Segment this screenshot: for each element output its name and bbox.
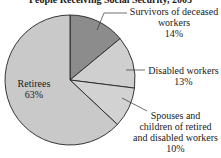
label-text: workers <box>127 17 221 28</box>
label-disabled: Disabled workers 13% <box>146 65 221 87</box>
label-text: and disabled workers <box>130 132 221 143</box>
label-spouses: Spouses and children of retired and disa… <box>130 110 221 154</box>
label-survivors: Survivors of deceased workers 14% <box>127 6 221 39</box>
label-text: Survivors of deceased <box>127 6 221 17</box>
label-percent: 10% <box>130 143 221 154</box>
label-percent: 14% <box>127 28 221 39</box>
label-text: Retirees <box>14 78 54 89</box>
label-retirees: Retirees 63% <box>14 78 54 100</box>
label-text: Spouses and <box>130 110 221 121</box>
label-percent: 13% <box>146 76 221 87</box>
label-text: Disabled workers <box>146 65 221 76</box>
label-percent: 63% <box>14 89 54 100</box>
label-text: children of retired <box>130 121 221 132</box>
